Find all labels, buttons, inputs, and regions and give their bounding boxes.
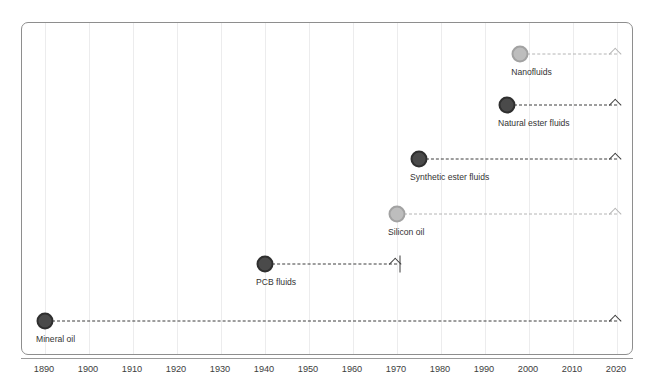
- x-tick-label-1920: 1920: [166, 365, 186, 374]
- timeline-marker[interactable]: [499, 97, 516, 114]
- timeline-row-label: PCB fluids: [256, 278, 296, 287]
- gridline-2020: [617, 23, 618, 354]
- x-tick-label-2000: 2000: [518, 365, 538, 374]
- gridline-1910: [133, 23, 134, 354]
- gridline-2010: [573, 23, 574, 354]
- x-tick-label-1960: 1960: [342, 365, 362, 374]
- x-axis-line: [21, 358, 633, 359]
- timeline-marker[interactable]: [37, 313, 54, 330]
- gridline-1990: [485, 23, 486, 354]
- x-tick-label-2020: 2020: [606, 365, 626, 374]
- timeline-track: [527, 54, 617, 55]
- x-tick-label-1980: 1980: [430, 365, 450, 374]
- timeline-arrowhead: [609, 208, 622, 221]
- timeline-marker[interactable]: [512, 46, 529, 63]
- x-tick-label-1950: 1950: [298, 365, 318, 374]
- x-tick-label-1970: 1970: [386, 365, 406, 374]
- timeline-row-label: Natural ester fluids: [498, 119, 570, 128]
- x-tick-label-1930: 1930: [210, 365, 230, 374]
- timeline-marker[interactable]: [411, 151, 428, 168]
- timeline-row-label: Synthetic ester fluids: [410, 173, 489, 182]
- gridline-1940: [265, 23, 266, 354]
- plot-area: NanofluidsNatural ester fluidsSynthetic …: [21, 22, 633, 355]
- gridline-1960: [353, 23, 354, 354]
- timeline-end-bar: [400, 256, 401, 273]
- x-tick-label-2010: 2010: [562, 365, 582, 374]
- timeline-track: [426, 159, 617, 160]
- timeline-track: [514, 105, 617, 106]
- x-tick-label-1940: 1940: [254, 365, 274, 374]
- gridline-1970: [397, 23, 398, 354]
- timeline-marker[interactable]: [257, 256, 274, 273]
- timeline-track: [52, 321, 617, 322]
- timeline-row-label: Nanofluids: [511, 68, 552, 77]
- timeline-row-label: Mineral oil: [36, 335, 75, 344]
- x-tick-label-1990: 1990: [474, 365, 494, 374]
- timeline-arrowhead: [609, 99, 622, 112]
- timeline-track: [404, 214, 617, 215]
- gridline-1930: [221, 23, 222, 354]
- gridline-1900: [89, 23, 90, 354]
- gridline-1890: [45, 23, 46, 354]
- timeline-arrowhead: [609, 48, 622, 61]
- gridline-1980: [441, 23, 442, 354]
- timeline-arrowhead: [609, 153, 622, 166]
- timeline-arrowhead: [609, 315, 622, 328]
- x-tick-label-1900: 1900: [78, 365, 98, 374]
- timeline-row-label: Silicon oil: [388, 228, 424, 237]
- timeline-track: [272, 264, 397, 265]
- timeline-marker[interactable]: [389, 206, 406, 223]
- gridline-1950: [309, 23, 310, 354]
- x-tick-label-1890: 1890: [34, 365, 54, 374]
- gridline-1920: [177, 23, 178, 354]
- timeline-chart: NanofluidsNatural ester fluidsSynthetic …: [0, 0, 654, 391]
- x-tick-label-1910: 1910: [122, 365, 142, 374]
